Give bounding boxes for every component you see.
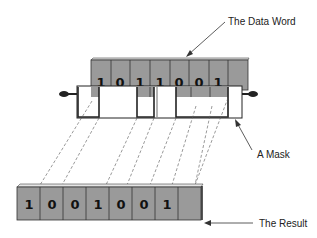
result-bit-4: 1	[93, 197, 102, 212]
label-data-word: The Data Word	[228, 16, 296, 27]
result-bit-6: 0	[139, 197, 148, 212]
result-register: 1 0 0 1 0 0 1	[17, 184, 203, 220]
mask-handle-left	[59, 91, 77, 97]
data-word-register: 1 0 1 1 0 0 1	[91, 58, 249, 90]
callout-mask: A Mask	[235, 119, 291, 160]
result-bit-3: 0	[70, 197, 79, 212]
mask-handle-right	[242, 91, 258, 97]
result-bit-2: 0	[47, 197, 56, 212]
masking-diagram: 1 0 1 1 0 0 1	[0, 0, 317, 238]
callout-result: The Result	[204, 218, 308, 229]
label-mask: A Mask	[257, 149, 291, 160]
callout-data-word: The Data Word	[186, 16, 296, 57]
result-bit-7: 1	[162, 197, 171, 212]
label-result: The Result	[259, 218, 308, 229]
mask-strip	[59, 86, 258, 118]
result-bit-1: 1	[24, 197, 33, 212]
result-bit-5: 0	[116, 197, 125, 212]
